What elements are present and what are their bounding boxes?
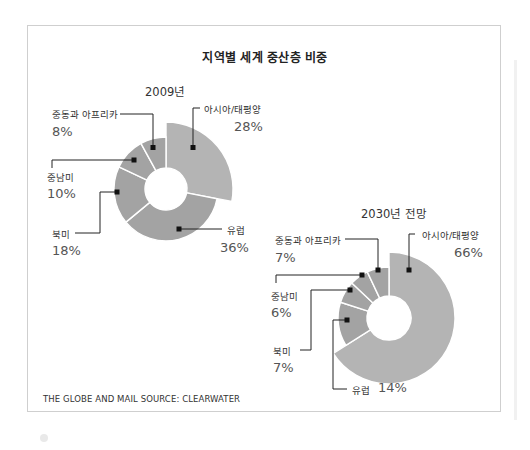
label-2009-latam: 중남미 (47, 170, 74, 184)
label-2030-latam: 중남미 (271, 289, 298, 303)
label-2009-europe: 유럽 (227, 223, 245, 237)
label-2030-europe: 유럽 (352, 383, 370, 397)
donut-slice (166, 122, 233, 202)
label-2030-asia: 아시아/태평양 (422, 228, 479, 242)
label-2030-mea: 중동과 아프리카 (275, 233, 341, 247)
leader-2030-latam (276, 275, 362, 283)
leader-2009-namerica (75, 192, 117, 233)
label-2009-mea: 중동과 아프리카 (52, 107, 118, 121)
value-2009-mea: 8% (52, 124, 73, 139)
value-2009-asia: 28% (234, 119, 263, 134)
value-2030-mea: 7% (275, 250, 296, 265)
value-2030-latam: 6% (271, 305, 292, 320)
value-2030-europe: 14% (378, 380, 407, 395)
value-2009-namerica: 18% (52, 243, 81, 258)
source-footer: THE GLOBE AND MAIL SOURCE: CLEARWATER (43, 394, 240, 404)
donut-charts (0, 0, 530, 450)
label-2030-namerica: 북미 (273, 344, 291, 358)
leader-2030-mea (345, 239, 378, 268)
value-2009-europe: 36% (220, 240, 249, 255)
donut-2030 (333, 252, 455, 384)
value-2030-asia: 66% (454, 245, 483, 260)
value-2009-latam: 10% (47, 186, 76, 201)
label-2009-namerica: 북미 (52, 227, 70, 241)
label-2009-asia: 아시아/태평양 (204, 102, 261, 116)
value-2030-namerica: 7% (273, 360, 294, 375)
donut-2009 (114, 122, 233, 241)
